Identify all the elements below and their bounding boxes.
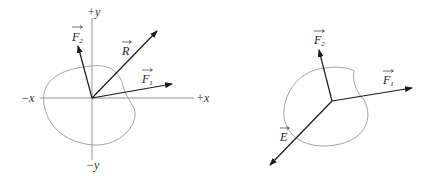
label-f2: F2 [313, 30, 325, 49]
label-neg-y: −y [86, 158, 100, 172]
label-f2: F2 [71, 26, 83, 46]
svg-text:E: E [279, 130, 288, 144]
label-f1: F1 [141, 69, 153, 88]
force-diagrams: F2 R F1 +y −y −x +x F2 F1 [0, 0, 427, 178]
svg-text:R: R [121, 44, 130, 58]
label-e: E [279, 127, 290, 145]
vector-f2 [319, 50, 332, 101]
vector-f2 [78, 46, 92, 98]
left-diagram: F2 R F1 +y −y −x +x [21, 5, 210, 172]
label-neg-x: −x [21, 91, 35, 105]
object-outline [44, 66, 136, 145]
label-pos-x: +x [196, 91, 210, 105]
label-f1: F1 [382, 70, 394, 89]
label-r: R [121, 41, 132, 59]
svg-text:F2: F2 [71, 30, 83, 45]
svg-text:F1: F1 [382, 73, 394, 88]
svg-text:F1: F1 [141, 72, 153, 87]
svg-text:F2: F2 [313, 33, 325, 48]
right-diagram: F2 F1 E [270, 30, 412, 166]
vector-f1 [332, 88, 412, 101]
label-pos-y: +y [87, 5, 101, 19]
